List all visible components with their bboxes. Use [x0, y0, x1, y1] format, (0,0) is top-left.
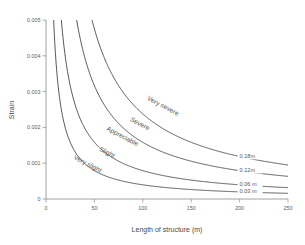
y-tick-label: 0.002 [27, 124, 41, 130]
curve-end-label: 0.06 m [240, 181, 257, 187]
x-tick-label: 200 [235, 205, 244, 211]
x-tick-label: 0 [45, 205, 48, 211]
x-tick-label: 100 [138, 205, 147, 211]
y-tick-label: 0.001 [27, 160, 41, 166]
x-tick-label: 150 [187, 205, 196, 211]
curve-end-label: 0.12m [240, 167, 256, 173]
y-tick-label: 0.005 [27, 17, 41, 23]
chart-figure: 050100150200250 00.0010.0020.0030.0040.0… [0, 0, 305, 245]
y-tick-label: 0.003 [27, 89, 41, 95]
curve-end-label: 0.03 m [240, 188, 257, 194]
strain-vs-length-chart: 050100150200250 00.0010.0020.0030.0040.0… [0, 0, 305, 245]
y-axis-title: Strain [8, 101, 15, 119]
curve-end-label: 0.18m [240, 153, 256, 159]
x-axis-title: Length of structure (m) [132, 226, 203, 234]
x-tick-label: 50 [91, 205, 97, 211]
y-tick-label: 0.004 [27, 53, 41, 59]
y-tick-label: 0 [38, 196, 41, 202]
x-tick-label: 250 [284, 205, 293, 211]
